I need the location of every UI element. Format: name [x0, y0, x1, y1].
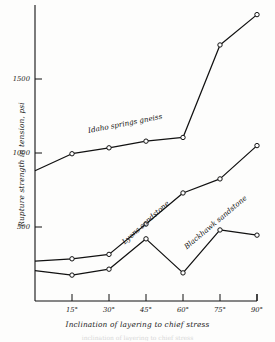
x-axis-title: Inclination of layering to chief stress: [0, 320, 275, 329]
chart-plot-area: [0, 0, 275, 342]
bottom-caption-fragment: inclination of layering to chief stress: [0, 334, 275, 341]
data-series-group: [35, 12, 259, 277]
y-axis-ticks: [35, 79, 42, 227]
y-tick-label: 500: [2, 223, 30, 231]
data-point-marker: [107, 146, 111, 150]
data-point-marker: [181, 271, 185, 275]
y-tick-label: 1000: [2, 149, 30, 157]
x-tick-label: 15°: [59, 306, 85, 314]
data-point-marker: [181, 191, 185, 195]
x-tick-label: 90°: [244, 306, 270, 314]
series-line: [35, 15, 257, 171]
data-point-marker: [70, 273, 74, 277]
data-point-marker: [255, 233, 259, 237]
data-point-marker: [144, 139, 148, 143]
data-point-marker: [144, 237, 148, 241]
figure-container: Rupture strength in tension, psi Inclina…: [0, 0, 275, 342]
y-axis-title: Rupture strength in tension, psi: [17, 100, 26, 230]
x-tick-label: 30°: [96, 306, 122, 314]
data-point-marker: [181, 135, 185, 139]
data-point-marker: [218, 177, 222, 181]
y-tick-label: 1500: [2, 75, 30, 83]
x-axis-ticks: [72, 294, 257, 301]
series-line: [35, 146, 257, 261]
data-point-marker: [107, 267, 111, 271]
data-point-marker: [255, 143, 259, 147]
data-point-marker: [70, 152, 74, 156]
x-tick-label: 45°: [133, 306, 159, 314]
x-tick-label: 60°: [170, 306, 196, 314]
data-point-marker: [107, 252, 111, 256]
data-point-marker: [255, 12, 259, 16]
axes: [35, 5, 257, 301]
data-point-marker: [218, 43, 222, 47]
data-point-marker: [218, 228, 222, 232]
x-tick-label: 75°: [207, 306, 233, 314]
data-point-marker: [70, 257, 74, 261]
